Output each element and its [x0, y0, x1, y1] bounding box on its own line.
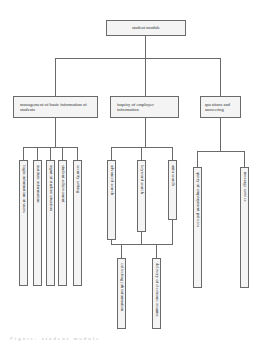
connector-leaf: [141, 147, 142, 160]
leaf-collecting-job-information: collecting job information: [117, 258, 126, 329]
connector-leaf: [244, 151, 245, 167]
node-label: login information of users: [21, 165, 26, 213]
connector-leaf: [197, 151, 198, 167]
leaf-auto-search: auto search: [168, 160, 177, 220]
leaf-query-employment-policies: query of employment policies: [193, 167, 202, 288]
node-label: delivery of electronic resume: [154, 263, 159, 317]
connector-leaf: [37, 147, 38, 160]
leaf-advanced-search: advanced search: [107, 160, 116, 240]
node-label: management of basic information of stude…: [20, 102, 91, 113]
connector-leaf-bottom: [172, 220, 173, 245]
node-management-basic-info: management of basic information of stude…: [13, 96, 98, 118]
connector-branch-1-down: [55, 117, 56, 147]
leaf-input-student-situation: input of student situation: [46, 160, 55, 286]
node-label: security setting: [75, 165, 80, 193]
leaf-login-information: login information of users: [19, 160, 28, 286]
connector-root: [145, 35, 146, 58]
connector-leaf: [111, 147, 112, 160]
connector-leaf: [23, 147, 24, 160]
node-label: institute information: [35, 165, 40, 203]
connector-level2-bus: [55, 58, 221, 59]
connector-to-branch-1: [55, 58, 56, 96]
node-label: query of employment policies: [195, 172, 200, 227]
leaf-security-setting: security setting: [73, 160, 82, 286]
root-node-student-module: student module: [106, 20, 186, 36]
connector-branch-3-down: [220, 117, 221, 151]
leaf-student-achievement: student achievement: [58, 160, 67, 286]
leaf-keyword-search: keyword search: [137, 160, 146, 232]
node-label: message service: [242, 172, 247, 202]
connector-to-branch-3: [220, 58, 221, 96]
connector-sub-leaf: [121, 244, 122, 258]
connector-sub-leaf: [156, 244, 157, 258]
connector-leaf: [77, 147, 78, 160]
leaf-message-service: message service: [240, 167, 249, 288]
node-label: keyword search: [139, 165, 144, 194]
leaf-institute-information: institute information: [33, 160, 42, 286]
node-label: advanced search: [109, 165, 114, 195]
leaf-delivery-electronic-resume: delivery of electronic resume: [152, 258, 161, 329]
node-inquiry-employer-info: inquiry of employer information: [110, 96, 179, 118]
node-label: questions and answering: [205, 102, 236, 113]
connector-leaf: [62, 147, 63, 160]
node-label: input of student situation: [48, 165, 53, 211]
connector-to-branch-2: [145, 58, 146, 96]
node-label: student achievement: [60, 165, 65, 203]
node-label: auto search: [170, 165, 175, 186]
connector-branch-2-down: [145, 117, 146, 147]
node-label: collecting job information: [119, 263, 124, 311]
figure-caption: Figure: student module: [10, 336, 175, 342]
node-label: inquiry of employer information: [117, 102, 172, 113]
node-questions-answering: questions and answering: [200, 96, 241, 118]
connector-leaf: [172, 147, 173, 160]
connector-leaf: [50, 147, 51, 160]
connector-branch-3-bus: [197, 151, 245, 152]
node-label: student module: [132, 25, 160, 30]
